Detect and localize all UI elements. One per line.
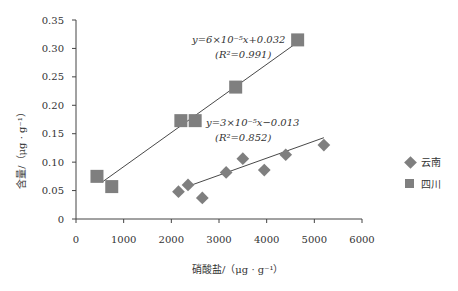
- data-point-diamond: [220, 166, 233, 179]
- data-point-square: [174, 114, 187, 127]
- y-tick-label: 0: [58, 214, 64, 225]
- r2-sichuan: (R²=0.991): [215, 49, 271, 60]
- legend-diamond-icon: [404, 156, 417, 169]
- x-tick-label: 6000: [349, 234, 374, 245]
- y-tick-label: 0.30: [42, 43, 64, 54]
- y-tick-label: 0.35: [42, 15, 64, 26]
- y-tick-label: 0.15: [42, 128, 64, 139]
- data-point-diamond: [258, 164, 271, 177]
- data-point-square: [90, 170, 103, 183]
- data-point-square: [291, 33, 304, 46]
- y-tick-label: 0.10: [42, 157, 64, 168]
- data-point-diamond: [318, 139, 331, 152]
- x-axis-label: 硝酸盐/（μg · g⁻¹）: [192, 263, 284, 275]
- y-tick-label: 0.05: [42, 185, 64, 196]
- legend-square-icon: [405, 179, 414, 188]
- trendlines: [102, 42, 324, 186]
- legend: 云南 四川: [404, 156, 441, 190]
- data-point-square: [229, 81, 242, 94]
- x-tick-label: 1000: [111, 234, 136, 245]
- legend-label-sichuan: 四川: [421, 179, 441, 190]
- x-tick-label: 4000: [254, 234, 279, 245]
- data-point-square: [105, 180, 118, 193]
- y-tick-label: 0.20: [42, 100, 64, 111]
- equation-yunnan: y=3×10⁻⁵x−0.013: [205, 117, 299, 128]
- data-point-diamond: [236, 152, 249, 165]
- trendline: [188, 138, 324, 187]
- y-axis-label: 含量/（μg · g⁻¹）: [15, 107, 27, 189]
- y-tick-label: 0.25: [42, 71, 64, 82]
- x-tick-label: 2000: [159, 234, 184, 245]
- data-point-square: [189, 114, 202, 127]
- axes: 00.050.100.150.200.250.300.3501000200030…: [42, 15, 375, 246]
- equation-sichuan: y=6×10⁻⁵x+0.032: [191, 34, 285, 45]
- x-tick-label: 0: [73, 234, 79, 245]
- data-point-diamond: [172, 185, 185, 198]
- x-tick-label: 3000: [206, 234, 231, 245]
- trendline: [102, 42, 297, 182]
- data-point-diamond: [182, 179, 195, 192]
- data-point-diamond: [279, 148, 292, 161]
- data-point-diamond: [196, 192, 209, 205]
- scatter-chart: 00.050.100.150.200.250.300.3501000200030…: [0, 0, 458, 291]
- r2-yunnan: (R²=0.852): [215, 132, 271, 143]
- x-tick-label: 5000: [302, 234, 327, 245]
- legend-label-yunnan: 云南: [421, 156, 441, 168]
